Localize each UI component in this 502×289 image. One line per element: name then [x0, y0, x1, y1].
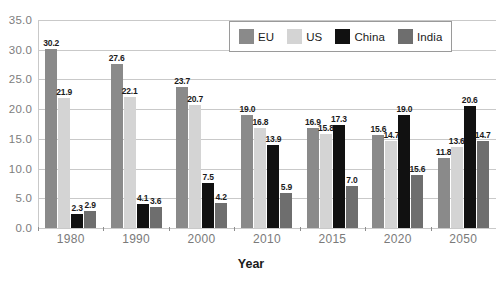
bar-value-label: 14.7 [383, 130, 399, 140]
bar-group: 23.720.77.54.2 [169, 20, 234, 228]
y-axis-tick-label: 20.0 [0, 103, 32, 115]
legend-item-us[interactable]: US [287, 29, 322, 44]
bar-rect [176, 87, 188, 228]
bar-rect [241, 115, 253, 228]
bar-rect [202, 183, 214, 228]
bar-chart: 35.030.025.020.015.010.05.00.0 30.221.92… [0, 0, 502, 289]
bar-value-label: 14.7 [475, 130, 491, 140]
bar-group-bars: 23.720.77.54.2 [169, 20, 234, 228]
bar-rect [84, 211, 96, 228]
x-axis-tick-label: 2020 [365, 232, 430, 246]
bar-us-2000[interactable]: 20.7 [189, 20, 201, 228]
legend-label: US [306, 31, 322, 43]
bar-value-label: 15.8 [318, 123, 334, 133]
bar-value-label: 19.0 [240, 104, 256, 114]
bar-rect [58, 98, 70, 228]
y-axis-tick-label: 10.0 [0, 163, 32, 175]
bar-india-1990[interactable]: 3.6 [150, 20, 162, 228]
legend-label: EU [258, 31, 274, 43]
bar-eu-2000[interactable]: 23.7 [176, 20, 188, 228]
bar-rect [320, 134, 332, 228]
bar-value-label: 17.3 [331, 114, 347, 124]
bar-value-label: 13.6 [449, 136, 465, 146]
gridline [38, 228, 496, 229]
bar-rect [411, 175, 423, 228]
bar-group: 27.622.14.13.6 [103, 20, 168, 228]
legend-swatch-icon [287, 29, 302, 44]
x-axis-tick-label: 2050 [431, 232, 496, 246]
bar-rect [137, 204, 149, 228]
bar-rect [477, 141, 489, 228]
bar-rect [267, 145, 279, 228]
bar-rect [189, 105, 201, 228]
bar-rect [215, 203, 227, 228]
bar-value-label: 20.6 [462, 95, 478, 105]
bar-value-label: 3.6 [150, 196, 161, 206]
legend-swatch-icon [239, 29, 254, 44]
bar-rect [124, 97, 136, 228]
bar-value-label: 30.2 [43, 38, 59, 48]
bar-rect [150, 207, 162, 228]
bar-value-label: 7.0 [346, 175, 357, 185]
bar-china-2050[interactable]: 20.6 [464, 20, 476, 228]
bar-value-label: 13.9 [266, 134, 282, 144]
bar-rect [385, 141, 397, 228]
legend: EUUSChinaIndia [229, 21, 452, 52]
bar-value-label: 7.5 [202, 172, 213, 182]
bar-value-label: 15.6 [409, 164, 425, 174]
bar-china-1990[interactable]: 4.1 [137, 20, 149, 228]
x-axis-tick-labels: 1980199020002010201520202050 [38, 232, 496, 246]
x-axis-tick-label: 2015 [300, 232, 365, 246]
y-axis-tick-label: 5.0 [0, 192, 32, 204]
bar-rect [71, 214, 83, 228]
bar-group-bars: 30.221.92.32.9 [38, 20, 103, 228]
bar-value-label: 20.7 [187, 94, 203, 104]
bar-group: 30.221.92.32.9 [38, 20, 103, 228]
bar-india-1980[interactable]: 2.9 [84, 20, 96, 228]
legend-swatch-icon [398, 29, 413, 44]
bar-rect [307, 128, 319, 228]
x-axis-tick-label: 1990 [103, 232, 168, 246]
bar-india-2050[interactable]: 14.7 [477, 20, 489, 228]
bar-rect [346, 186, 358, 228]
legend-item-india[interactable]: India [398, 29, 442, 44]
bar-eu-1990[interactable]: 27.6 [111, 20, 123, 228]
y-axis-tick-label: 0.0 [0, 222, 32, 234]
bar-china-1980[interactable]: 2.3 [71, 20, 83, 228]
bar-rect [372, 135, 384, 228]
bar-value-label: 19.0 [396, 104, 412, 114]
y-axis-tick-label: 35.0 [0, 14, 32, 26]
bar-rect [45, 49, 57, 228]
bar-value-label: 11.8 [436, 147, 451, 157]
bar-rect [451, 147, 463, 228]
bar-us-1990[interactable]: 22.1 [124, 20, 136, 228]
y-axis-tick-label: 15.0 [0, 133, 32, 145]
bar-value-label: 2.9 [85, 200, 96, 210]
legend-label: China [354, 31, 385, 43]
bar-value-label: 21.9 [56, 87, 72, 97]
bar-value-label: 2.3 [72, 203, 83, 213]
bar-rect [438, 158, 450, 228]
bar-china-2000[interactable]: 7.5 [202, 20, 214, 228]
x-axis-tick-label: 2010 [234, 232, 299, 246]
bar-rect [280, 193, 292, 228]
bar-value-label: 4.1 [137, 193, 148, 203]
bar-us-1980[interactable]: 21.9 [58, 20, 70, 228]
legend-label: India [417, 31, 442, 43]
legend-item-china[interactable]: China [335, 29, 385, 44]
bar-rect [464, 106, 476, 228]
bar-value-label: 5.9 [281, 182, 292, 192]
bar-us-2050[interactable]: 13.6 [451, 20, 463, 228]
x-axis-title: Year [0, 257, 502, 271]
x-axis-tick-label: 2000 [169, 232, 234, 246]
bar-value-label: 16.8 [253, 117, 269, 127]
bar-india-2000[interactable]: 4.2 [215, 20, 227, 228]
x-axis-tick-label: 1980 [38, 232, 103, 246]
bar-value-label: 22.1 [122, 86, 138, 96]
y-axis-tick-label: 30.0 [0, 44, 32, 56]
bar-group-bars: 27.622.14.13.6 [103, 20, 168, 228]
bar-value-label: 23.7 [174, 76, 190, 86]
y-axis-tick-label: 25.0 [0, 73, 32, 85]
bar-eu-1980[interactable]: 30.2 [45, 20, 57, 228]
legend-item-eu[interactable]: EU [239, 29, 274, 44]
